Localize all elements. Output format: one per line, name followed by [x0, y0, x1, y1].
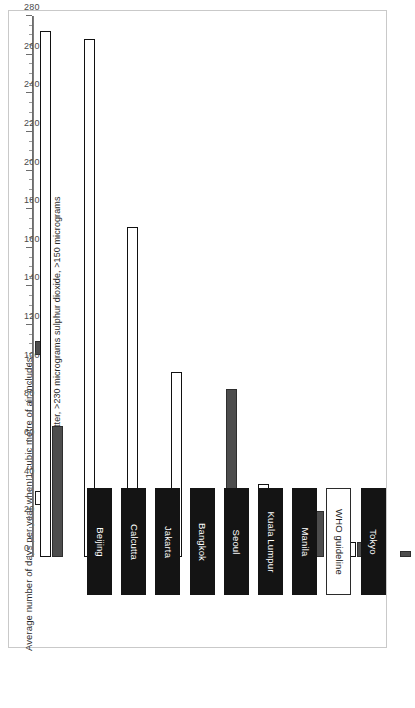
axis-tick-major: [26, 479, 32, 480]
category-label: Jakarta: [162, 525, 173, 557]
bar-group: [258, 16, 284, 557]
axis-tick-minor: [29, 527, 32, 528]
axis-tick-minor: [29, 450, 32, 451]
bar-group: [84, 16, 110, 557]
axis-tick-major: [26, 54, 32, 55]
axis-tick-minor: [29, 189, 32, 190]
axis-tick-minor: [29, 498, 32, 499]
axis-tick-major: [26, 556, 32, 557]
axis-tick-label: 0: [24, 543, 29, 553]
axis-tick-minor: [29, 343, 32, 344]
axis-tick-minor: [29, 295, 32, 296]
axis-tick-minor: [29, 334, 32, 335]
bar-group: [345, 16, 371, 557]
axis-tick-major: [26, 440, 32, 441]
category-chip-jakarta: Jakarta: [155, 488, 180, 595]
axis-tick-major: [26, 247, 32, 248]
axis-tick-major: [26, 363, 32, 364]
axis-tick-minor: [29, 257, 32, 258]
axis-tick-minor: [29, 63, 32, 64]
chart-frame: Average number of days per year when 1 c…: [8, 10, 387, 648]
bar-group: [127, 16, 153, 557]
axis-tick-major: [26, 92, 32, 93]
bar-so2: [52, 426, 63, 557]
axis-tick-major: [26, 170, 32, 171]
category-label: Tokyo: [368, 529, 379, 555]
category-label: Calcutta: [128, 523, 139, 559]
category-label: WHO guideline: [333, 509, 344, 575]
category-label: Seoul: [231, 529, 242, 554]
axis-tick-minor: [29, 266, 32, 267]
bar-group: [214, 16, 240, 557]
axis-tick-minor: [29, 372, 32, 373]
category-chip-manila: Manila: [292, 488, 317, 595]
category-label: Manila: [299, 527, 310, 556]
axis-tick-minor: [29, 218, 32, 219]
axis-tick-minor: [29, 25, 32, 26]
bar-group: [388, 16, 414, 557]
category-chip-calcutta: Calcutta: [121, 488, 146, 595]
category-chip-beijing: Beijing: [87, 488, 112, 595]
axis-tick-label: 280: [24, 2, 40, 12]
axis-tick-minor: [29, 459, 32, 460]
category-chip-seoul: Seoul: [224, 488, 249, 595]
category-label: Kuala Lumpur: [265, 511, 276, 572]
axis-tick-minor: [29, 411, 32, 412]
category-label: Beijing: [94, 527, 105, 557]
axis-tick-minor: [29, 141, 32, 142]
axis-tick-minor: [29, 488, 32, 489]
axis-tick-minor: [29, 34, 32, 35]
axis-tick-minor: [29, 179, 32, 180]
axis-tick-minor: [29, 546, 32, 547]
category-chip-kuala-lumpur: Kuala Lumpur: [258, 488, 283, 595]
axis-tick-major: [26, 208, 32, 209]
axis-tick-minor: [29, 305, 32, 306]
category-chip-bangkok: Bangkok: [190, 488, 215, 595]
axis-tick-minor: [29, 537, 32, 538]
axis-tick-major: [26, 401, 32, 402]
axis-tick-major: [26, 324, 32, 325]
axis-tick-major: [26, 15, 32, 16]
axis-tick-minor: [29, 102, 32, 103]
bar-group: [301, 16, 327, 557]
category-chip-tokyo: Tokyo: [361, 488, 386, 595]
axis-tick-minor: [29, 112, 32, 113]
axis-tick-minor: [29, 228, 32, 229]
axis-tick-minor: [29, 421, 32, 422]
axis-tick-minor: [29, 382, 32, 383]
axis-tick-major: [26, 131, 32, 132]
bar-group: [40, 16, 66, 557]
bar-group: [171, 16, 197, 557]
axis-tick-minor: [29, 73, 32, 74]
axis-tick-major: [26, 517, 32, 518]
value-axis: 020406080100120140160180200220240260280: [9, 16, 33, 557]
bar-pm: [84, 39, 95, 557]
bar-so2: [400, 551, 411, 557]
bar-pm: [40, 31, 51, 557]
category-label: Bangkok: [197, 522, 208, 560]
axis-tick-major: [26, 286, 32, 287]
bar-groups: [34, 16, 415, 557]
axis-tick-minor: [29, 150, 32, 151]
category-chip-who-guideline: WHO guideline: [326, 488, 351, 595]
